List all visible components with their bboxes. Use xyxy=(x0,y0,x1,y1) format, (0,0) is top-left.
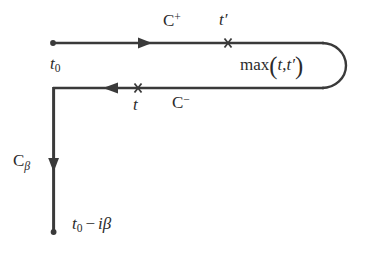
label-t-zero-subscript: 0 xyxy=(55,62,61,75)
label-max-function: max xyxy=(240,55,269,74)
right-round-cap xyxy=(322,43,346,88)
contour-path-graphic xyxy=(0,0,366,259)
label-c-plus-base: C xyxy=(163,11,174,30)
label-max-expression: max(t,t′) xyxy=(240,54,303,79)
label-c-minus: C− xyxy=(172,94,190,111)
start-point-dot xyxy=(50,40,56,46)
label-c-beta: Cβ xyxy=(13,152,30,172)
label-t-lower-base: t xyxy=(133,95,138,114)
upper-branch-arrowhead xyxy=(138,38,152,49)
label-c-minus-base: C xyxy=(172,93,183,112)
label-c-minus-superscript: − xyxy=(183,93,190,106)
label-c-plus: C+ xyxy=(163,12,181,29)
label-max-open-paren: ( xyxy=(269,52,277,79)
label-t-prime: t′ xyxy=(219,11,227,28)
vertical-branch-arrowhead xyxy=(48,158,59,172)
label-c-beta-subscript: β xyxy=(24,159,30,173)
label-t-lower: t xyxy=(133,96,138,113)
label-t-zero: t0 xyxy=(50,55,61,75)
keldysh-contour-figure: C+ t′ t0 max(t,t′) t C− Cβ t0−iβ xyxy=(0,0,366,259)
label-c-beta-base: C xyxy=(13,151,24,170)
label-t0ibeta-operator: − xyxy=(83,214,99,233)
lower-branch-arrowhead xyxy=(103,83,118,94)
label-t-prime-mark: ′ xyxy=(224,10,228,29)
label-t-zero-minus-i-beta: t0−iβ xyxy=(72,215,111,235)
label-c-plus-superscript: + xyxy=(174,11,181,24)
end-point-dot xyxy=(51,229,57,235)
label-t0ibeta-beta: β xyxy=(103,214,111,233)
label-t0ibeta-subscript: 0 xyxy=(77,222,83,235)
label-max-close-paren: ) xyxy=(295,52,303,79)
